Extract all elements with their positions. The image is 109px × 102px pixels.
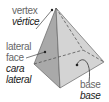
lateral-en-1: lateral xyxy=(6,41,31,52)
vertex-es: vértice xyxy=(12,16,39,27)
vertex-label: vertex vértice xyxy=(12,5,39,27)
lateral-es-2: lateral xyxy=(6,74,31,85)
lateral-face-label: lateral face cara lateral xyxy=(6,41,31,85)
lateral-en-2: face xyxy=(6,52,31,63)
lateral-es-1: cara xyxy=(6,63,31,74)
base-es: base xyxy=(80,90,101,101)
base-en: base xyxy=(80,79,101,90)
pyramid-diagram: vertex vértice lateral face cara lateral… xyxy=(0,0,109,102)
base-label: base base xyxy=(80,79,101,101)
vertex-en: vertex xyxy=(12,5,39,16)
